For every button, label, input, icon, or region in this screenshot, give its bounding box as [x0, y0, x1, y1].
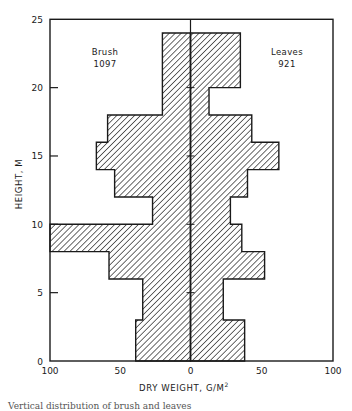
brush-total: 1097: [93, 59, 116, 69]
x-tick-label: 100: [41, 366, 58, 376]
y-tick-label: 0: [37, 357, 43, 367]
x-tick-label: 50: [115, 366, 127, 376]
leaves-total: 921: [278, 59, 295, 69]
y-axis-title: HEIGHT, M: [14, 159, 24, 210]
y-tick-label: 5: [37, 288, 43, 298]
leaves-series: [191, 33, 279, 361]
figure-caption: Vertical distribution of brush and leave…: [8, 401, 191, 411]
leaves-label: Leaves: [271, 47, 303, 57]
x-tick-labels: 10050050100: [41, 366, 341, 376]
x-tick-label: 50: [256, 366, 268, 376]
brush-profile: [50, 33, 191, 361]
y-tick-label: 15: [32, 151, 43, 161]
y-tick-label: 10: [32, 220, 44, 230]
y-tick-label: 25: [32, 15, 43, 25]
x-tick-label: 100: [324, 366, 341, 376]
x-tick-label: 0: [188, 366, 194, 376]
leaves-profile: [191, 33, 279, 361]
brush-label: Brush: [92, 47, 119, 57]
brush-series: [50, 33, 191, 361]
x-axis-title: DRY WEIGHT, G/M2: [139, 381, 229, 393]
y-tick-label: 20: [32, 83, 44, 93]
y-tick-labels: 0510152025: [32, 15, 44, 367]
